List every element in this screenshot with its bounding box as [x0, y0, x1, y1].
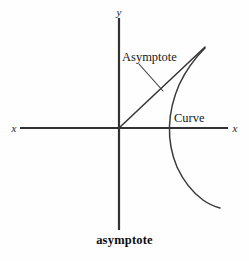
curve-annotation-label: Curve [174, 111, 205, 125]
asymptote-annotation-label: Asymptote [122, 50, 177, 64]
asymptote-figure: x x y Asymptote Curve asymptote [0, 0, 249, 261]
y-axis-label-top: y [116, 6, 122, 18]
x-axis-label-left: x [11, 122, 17, 134]
figure-caption: asymptote [0, 233, 249, 248]
coordinate-diagram: x x y Asymptote Curve [0, 0, 249, 261]
asymptote-leader-line [139, 64, 163, 91]
x-axis-label-right: x [232, 122, 238, 134]
